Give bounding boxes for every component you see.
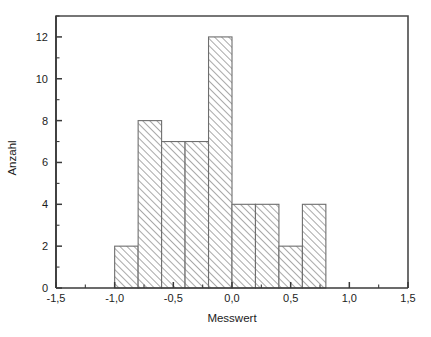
- y-tick-label: 6: [42, 156, 48, 168]
- y-axis-title: Anzahl: [6, 140, 18, 175]
- x-tick-label: 0,5: [283, 292, 298, 304]
- x-tick-label: -1,0: [105, 292, 124, 304]
- histogram-bar: [162, 142, 185, 288]
- y-tick-label: 2: [42, 240, 48, 252]
- histogram-bar: [232, 204, 255, 288]
- y-tick-label: 0: [42, 282, 48, 294]
- histogram-bar: [302, 204, 325, 288]
- x-tick-label: 1,5: [400, 292, 415, 304]
- x-tick-label: -0,5: [164, 292, 183, 304]
- y-tick-label: 8: [42, 115, 48, 127]
- x-tick-label: -1,5: [47, 292, 66, 304]
- histogram-bar: [209, 37, 232, 288]
- histogram-bar: [115, 246, 138, 288]
- histogram-chart: -1,5-1,0-0,50,00,51,01,5 024681012 Messw…: [0, 0, 431, 337]
- histogram-bar: [138, 121, 161, 288]
- x-axis-title: Messwert: [207, 312, 257, 324]
- x-tick-label: 0,0: [224, 292, 239, 304]
- y-tick-label: 4: [42, 198, 48, 210]
- y-tick-label: 12: [36, 31, 48, 43]
- chart-canvas: -1,5-1,0-0,50,00,51,01,5 024681012 Messw…: [0, 0, 431, 337]
- histogram-bar: [255, 204, 278, 288]
- histogram-bar: [279, 246, 302, 288]
- histogram-bar: [185, 142, 208, 288]
- x-tick-label: 1,0: [342, 292, 357, 304]
- y-tick-label: 10: [36, 73, 48, 85]
